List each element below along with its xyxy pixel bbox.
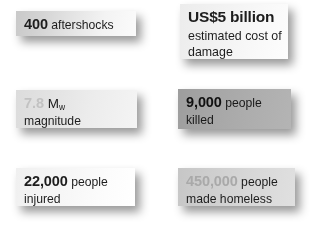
fact-headline: US$5 billion	[188, 8, 281, 27]
fact-headline: 9,000 people	[186, 93, 284, 112]
fact-card-injured: 22,000 people injured	[16, 168, 135, 206]
fact-value: 22,000	[24, 173, 68, 189]
magnitude-symbol-subscript: w	[59, 102, 65, 112]
fact-sub-line-2: damage	[188, 45, 281, 60]
fact-unit: people	[68, 175, 108, 189]
fact-value: 7.8	[24, 95, 44, 111]
fact-sub-line-1: estimated cost of	[188, 29, 281, 44]
fact-headline: 7.8 Mw	[24, 94, 130, 113]
fact-unit: people	[238, 175, 278, 189]
magnitude-symbol: Mw	[44, 96, 65, 111]
fact-sub: injured	[24, 192, 128, 206]
fact-sub: made homeless	[186, 192, 288, 206]
fact-value: US$5 billion	[188, 8, 274, 25]
fact-card-homeless: 450,000 people made homeless	[178, 168, 295, 206]
fact-card-aftershocks: 400 aftershocks	[16, 11, 136, 36]
fact-value: 400	[24, 16, 48, 32]
fact-headline: 22,000 people	[24, 172, 128, 191]
fact-sub: magnitude	[24, 114, 130, 128]
fact-card-killed: 9,000 people killed	[178, 89, 291, 129]
fact-unit: aftershocks	[48, 18, 114, 32]
fact-headline: 400 aftershocks	[24, 15, 129, 34]
magnitude-symbol-letter: M	[48, 96, 59, 111]
fact-card-magnitude: 7.8 Mw magnitude	[16, 90, 137, 128]
fact-card-grid: 400 aftershocks US$5 billion estimated c…	[0, 0, 320, 229]
fact-value: 9,000	[186, 94, 222, 110]
fact-card-cost: US$5 billion estimated cost of damage	[180, 4, 288, 59]
fact-value: 450,000	[186, 173, 238, 189]
fact-unit: people	[222, 96, 262, 110]
fact-headline: 450,000 people	[186, 172, 288, 191]
fact-sub: killed	[186, 113, 284, 127]
